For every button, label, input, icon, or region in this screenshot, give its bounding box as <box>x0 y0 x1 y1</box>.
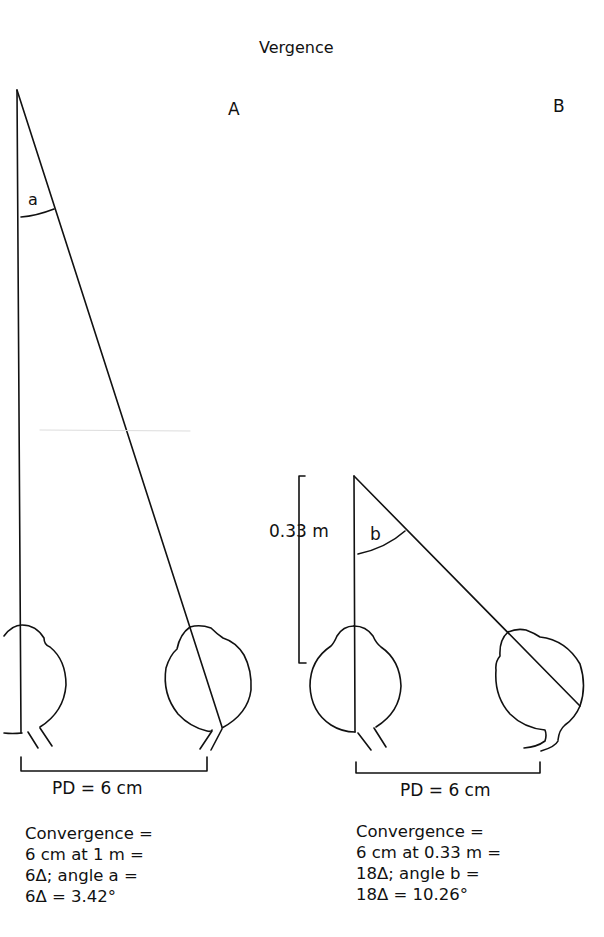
panel-a-left-eye-icon <box>4 625 66 748</box>
panel-a-caption: Convergence = 6 cm at 1 m = 6Δ; angle a … <box>25 823 153 907</box>
panel-a-geometry <box>17 90 222 733</box>
panel-b-caption-line: 18Δ; angle b = <box>356 863 501 884</box>
panel-b-angle-arc <box>358 531 405 554</box>
panel-a-left-sightline <box>17 90 21 733</box>
panel-b-right-eye-icon <box>496 629 584 751</box>
panel-b-caption: Convergence = 6 cm at 0.33 m = 18Δ; angl… <box>356 821 501 905</box>
panel-b-pd-bracket <box>356 762 540 773</box>
figure-title: Vergence <box>259 38 334 57</box>
angle-b-label: b <box>370 524 381 544</box>
panel-a-pd-label: PD = 6 cm <box>52 778 143 798</box>
panel-a-caption-line: Convergence = <box>25 823 153 844</box>
angle-a-label: a <box>28 190 38 209</box>
vergence-figure: Vergence A B a b 0.33 m PD = 6 cm PD = 6… <box>0 0 604 937</box>
panel-a-right-sightline <box>17 90 222 727</box>
panel-a-caption-line: 6Δ; angle a = <box>25 865 153 886</box>
panel-b-geometry <box>299 476 580 732</box>
panel-a-caption-line: 6Δ = 3.42° <box>25 886 153 907</box>
panel-b-caption-line: 6 cm at 0.33 m = <box>356 842 501 863</box>
panel-b-left-sightline <box>354 476 355 732</box>
panel-b-pd-label: PD = 6 cm <box>400 780 491 800</box>
panel-a-letter: A <box>228 99 240 119</box>
panel-b-right-sightline <box>354 476 580 706</box>
panel-a-faint-guide <box>40 430 190 431</box>
panel-a-angle-arc <box>21 209 54 217</box>
panel-a-pd-bracket <box>21 757 207 771</box>
panel-a-caption-line: 6 cm at 1 m = <box>25 844 153 865</box>
panel-b-distance-bracket <box>299 476 306 663</box>
panel-b-caption-line: Convergence = <box>356 821 501 842</box>
panel-b-letter: B <box>553 96 565 116</box>
panel-b-caption-line: 18Δ = 10.26° <box>356 884 501 905</box>
panel-b-distance-label: 0.33 m <box>269 521 329 541</box>
panel-a-right-eye-icon <box>165 626 251 750</box>
